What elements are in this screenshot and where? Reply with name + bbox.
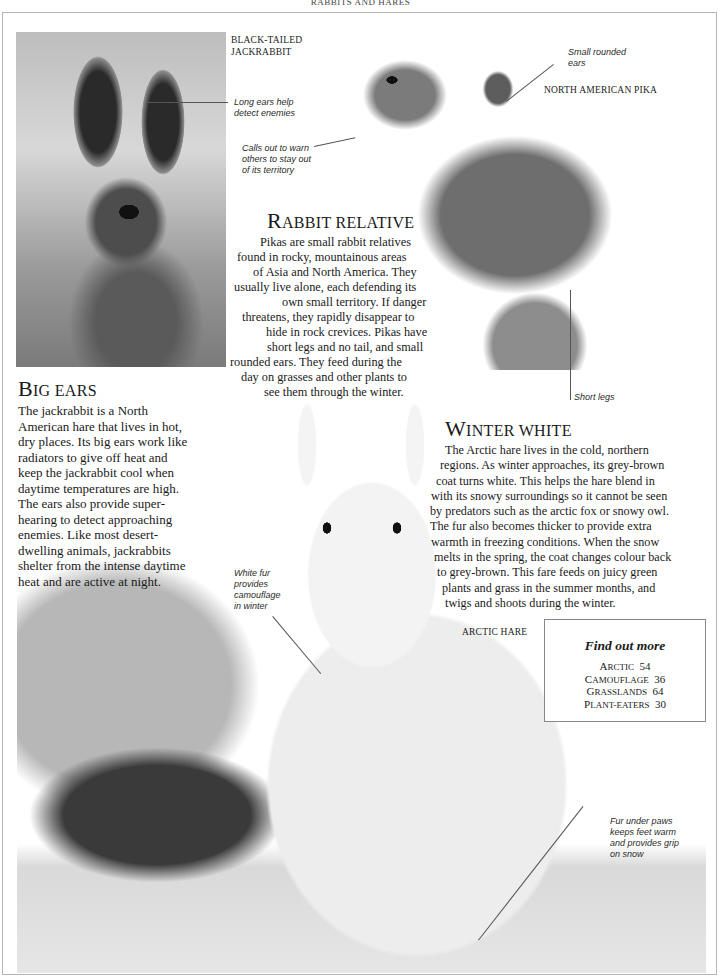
ref-topic: rctic [607, 662, 634, 672]
callout-fur-paws: Fur under paws keeps feet warm and provi… [610, 816, 679, 860]
section-heading: Rabbit relative [267, 209, 530, 235]
ref-page: 36 [654, 673, 665, 685]
callout-line: Fur under paws [610, 816, 679, 827]
body-line: by predators such as the arctic fox or s… [430, 504, 720, 519]
body-line: The fur also becomes thicker to provide … [430, 519, 720, 534]
body-line: The jackrabbit is a North [18, 403, 228, 419]
ref-page: 54 [639, 660, 650, 672]
body-line: coat turns white. This helps the hare bl… [430, 474, 720, 489]
ref-page: 64 [652, 685, 663, 697]
find-out-more-title: Find out more [545, 638, 705, 654]
callout-line: detect enemies [234, 108, 295, 119]
leader-line [148, 102, 228, 103]
callout-line: ears [568, 58, 626, 69]
section-body: Pikas are small rabbit relatives found i… [230, 235, 530, 400]
cross-reference-camouflage[interactable]: Camouflage 36 [545, 674, 705, 687]
ref-page: 30 [655, 698, 666, 710]
body-line: hearing to detect approaching [18, 512, 228, 528]
ref-topic: amouflage [592, 675, 649, 685]
cross-reference-plant-eaters[interactable]: Plant-eaters 30 [545, 699, 705, 712]
callout-line: Calls out to warn [242, 143, 311, 154]
body-line: American hare that lives in hot, [18, 419, 228, 435]
callout-line: others to stay out [242, 154, 311, 165]
callout-long-ears: Long ears help detect enemies [234, 97, 295, 119]
body-line: heat and are active at night. [18, 574, 228, 590]
section-rabbit-relative: Rabbit relative Pikas are small rabbit r… [230, 209, 530, 400]
body-line: day on grasses and other plants to [230, 370, 530, 385]
find-out-more-box: Find out more Arctic 54 Camouflage 36 Gr… [544, 619, 706, 722]
section-body: The Arctic hare lives in the cold, north… [430, 443, 720, 611]
body-line: rounded ears. They feed during the [230, 355, 530, 370]
body-line: found in rocky, mountainous areas [230, 250, 530, 265]
callout-line: Long ears help [234, 97, 295, 108]
body-line: keep the jackrabbit cool when [18, 465, 228, 481]
section-body: The jackrabbit is a North American hare … [18, 403, 228, 589]
heading-cap: W [445, 416, 466, 441]
callout-line: of its territory [242, 165, 311, 176]
jackrabbit-photo [16, 32, 226, 367]
ref-topic: rasslands [594, 687, 647, 697]
section-winter-white: Winter white The Arctic hare lives in th… [430, 417, 720, 611]
heading-rest: inter white [466, 422, 572, 439]
jackrabbit-label-line: JACKRABBIT [231, 46, 302, 58]
leader-line [570, 290, 571, 400]
callout-line: and provides grip [610, 838, 679, 849]
heading-cap: B [18, 376, 33, 401]
body-line: own small territory. If danger [230, 295, 530, 310]
body-line: twigs and shoots during the winter. [430, 596, 720, 611]
body-line: enemies. Like most desert- [18, 527, 228, 543]
body-line: with its snowy surroundings so it cannot… [430, 489, 720, 504]
body-line: shelter from the intense daytime [18, 558, 228, 574]
body-line: see them through the winter. [230, 385, 530, 400]
body-line: usually live alone, each defending its [230, 280, 530, 295]
body-line: regions. As winter approaches, its grey-… [430, 458, 720, 473]
body-line: radiators to give off heat and [18, 450, 228, 466]
callout-line: in winter [234, 601, 281, 612]
body-line: Pikas are small rabbit relatives [230, 235, 530, 250]
body-line: to grey-brown. This fare feeds on juicy … [430, 565, 720, 580]
section-heading: Big ears [18, 377, 228, 403]
body-line: hide in rock crevices. Pikas have [230, 325, 530, 340]
callout-line: White fur [234, 568, 281, 579]
callout-line: on snow [610, 849, 679, 860]
cross-reference-grasslands[interactable]: Grasslands 64 [545, 686, 705, 699]
body-line: The ears also provide super- [18, 496, 228, 512]
ref-topic: lant-eaters [590, 700, 649, 710]
body-line: dwelling animals, jackrabbits [18, 543, 228, 559]
section-big-ears: Big ears The jackrabbit is a North Ameri… [18, 377, 228, 589]
heading-rest: ig ears [33, 382, 97, 399]
callout-white-fur: White fur provides camouflage in winter [234, 568, 281, 612]
body-line: short legs and no tail, and small [230, 340, 530, 355]
callout-calls-out: Calls out to warn others to stay out of … [242, 143, 311, 176]
callout-line: camouflage [234, 590, 281, 601]
jackrabbit-label: BLACK-TAILED JACKRABBIT [231, 34, 302, 58]
body-line: daytime temperatures are high. [18, 481, 228, 497]
callout-small-ears: Small rounded ears [568, 47, 626, 69]
callout-line: Small rounded [568, 47, 626, 58]
body-line: melts in the spring, the coat changes co… [430, 550, 720, 565]
callout-line: provides [234, 579, 281, 590]
body-line: plants and grass in the summer months, a… [430, 581, 720, 596]
body-line: warmth in freezing conditions. When the … [430, 535, 720, 550]
body-line: dry places. Its big ears work like [18, 434, 228, 450]
running-head: RABBITS AND HARES [0, 0, 721, 7]
callout-short-legs: Short legs [574, 392, 615, 403]
body-line: The Arctic hare lives in the cold, north… [430, 443, 720, 458]
body-line: threatens, they rapidly disappear to [230, 310, 530, 325]
cross-reference-arctic[interactable]: Arctic 54 [545, 661, 705, 674]
heading-cap: R [267, 208, 282, 233]
pika-label: NORTH AMERICAN PIKA [544, 84, 657, 96]
body-line: of Asia and North America. They [230, 265, 530, 280]
section-heading: Winter white [445, 417, 720, 443]
callout-line: keeps feet warm [610, 827, 679, 838]
heading-rest: abbit relative [282, 214, 414, 231]
arctic-hare-label: ARCTIC HARE [462, 626, 527, 638]
jackrabbit-label-line: BLACK-TAILED [231, 34, 302, 46]
